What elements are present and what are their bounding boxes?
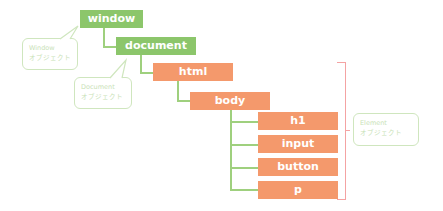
node-window: window <box>80 10 143 28</box>
connector-html-body-v <box>177 81 179 101</box>
callout-window-object: Window オブジェクト <box>22 38 78 70</box>
node-p: p <box>258 181 338 199</box>
element-bracket-tick <box>346 130 350 131</box>
node-document: document <box>116 37 196 55</box>
callout-element-line2: オブジェクト <box>360 128 412 138</box>
connector-body-p <box>230 189 259 191</box>
connector-body-input <box>230 144 259 146</box>
callout-window-tail-icon <box>58 24 82 40</box>
callout-document-line2: オブジェクト <box>81 92 125 102</box>
connector-document-html-v <box>140 55 142 73</box>
callout-document-line1: Document <box>81 82 125 92</box>
connector-body-h1 <box>230 121 259 123</box>
connector-html-body-h <box>177 100 191 102</box>
node-button: button <box>258 158 338 176</box>
callout-document-tail-icon <box>108 58 130 79</box>
node-h1: h1 <box>258 112 338 130</box>
node-body: body <box>190 92 270 110</box>
element-bracket <box>337 62 346 200</box>
node-html: html <box>153 63 233 81</box>
callout-window-line1: Window <box>29 43 71 53</box>
callout-element-object: Element オブジェクト <box>353 113 419 146</box>
connector-document-html-h <box>140 72 154 74</box>
node-input: input <box>258 135 338 153</box>
callout-element-line1: Element <box>360 118 412 128</box>
dom-tree-diagram: window document html body h1 input butto… <box>0 0 443 211</box>
connector-window-document-h <box>103 46 117 48</box>
callout-document-object: Document オブジェクト <box>74 77 132 109</box>
connector-window-document-v <box>103 28 105 47</box>
connector-body-button <box>230 167 259 169</box>
callout-window-line2: オブジェクト <box>29 53 71 63</box>
